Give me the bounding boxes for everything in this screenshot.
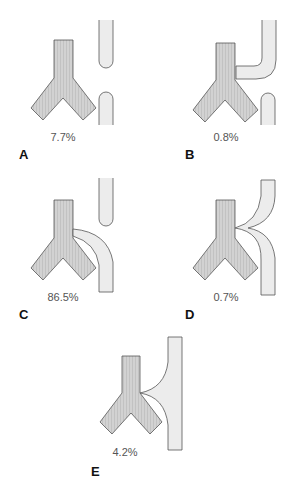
- panel-letter-c: C: [19, 307, 28, 322]
- percentage-c: 86.5%: [47, 291, 78, 303]
- panel-d: [193, 180, 275, 295]
- panel-letter-e: E: [91, 464, 100, 479]
- esophagus-upper-b: [236, 20, 276, 79]
- panel-a: [31, 20, 113, 125]
- percentage-e: 4.2%: [112, 446, 137, 458]
- panel-c: [31, 178, 113, 292]
- panel-letter-a: A: [19, 147, 28, 162]
- panel-letter-d: D: [185, 307, 194, 322]
- panel-e: [100, 337, 182, 450]
- panel-b: [193, 20, 276, 125]
- trachea-a: [31, 40, 96, 120]
- esophagus-upper-c: [99, 178, 113, 226]
- percentage-a: 7.7%: [50, 131, 75, 143]
- esophagus-d-fistulas: [235, 180, 275, 295]
- esophagus-lower-b: [261, 93, 275, 125]
- percentage-b: 0.8%: [213, 131, 238, 143]
- esophagus-lower-a: [99, 92, 113, 125]
- percentage-d: 0.7%: [213, 291, 238, 303]
- trachea-d: [193, 200, 258, 280]
- esophagus-upper-a: [99, 20, 113, 68]
- esophagus-e-h-fistula: [140, 337, 182, 450]
- esophageal-atresia-diagram: [0, 0, 293, 486]
- trachea-b: [193, 43, 258, 122]
- panel-letter-b: B: [185, 147, 194, 162]
